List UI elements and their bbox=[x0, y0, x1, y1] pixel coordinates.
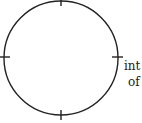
label-line2: of bbox=[128, 76, 140, 88]
circle bbox=[4, 1, 118, 115]
label-line1: int bbox=[124, 60, 140, 72]
circle-diagram bbox=[0, 0, 142, 123]
